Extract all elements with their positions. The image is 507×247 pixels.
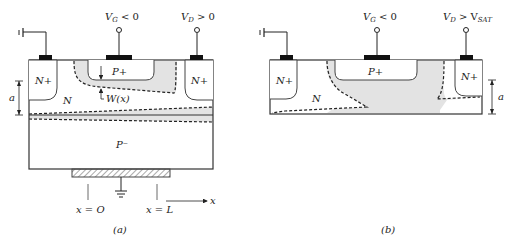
x0-label-a: x = O [76, 204, 105, 215]
gate-region-label-a: P+ [111, 66, 127, 77]
drain-voltage-label-a: VD > 0 [181, 11, 215, 24]
channel-label-b: N [311, 93, 322, 104]
drain-terminal-a [195, 28, 200, 33]
gate-contact-a [106, 55, 132, 60]
thickness-label-a: a [9, 92, 15, 103]
xL-label-a: x = L [146, 204, 173, 215]
jfet-diagram: VG < 0 VD > 0 N+ P+ N+ N P⁻ W(x) a x = O… [0, 0, 507, 247]
drain-contact-b [460, 55, 473, 60]
figure-b: VG < 0 VD > VSAT N+ P+ N+ N a (b) [260, 11, 504, 235]
x-axis-label-a: x [210, 195, 216, 206]
caption-b: (b) [381, 224, 395, 235]
gate-region-label-b: P+ [367, 66, 383, 77]
drain-voltage-label-b: VD > VSAT [443, 11, 493, 24]
source-ground-wire-a [23, 32, 46, 55]
gate-voltage-label-a: VG < 0 [105, 11, 139, 24]
source-region-label-b: N+ [275, 75, 293, 86]
substrate-contact-a [72, 169, 170, 177]
depletion-width-label-a: W(x) [106, 93, 130, 104]
drain-region-label-b: N+ [460, 71, 478, 82]
drain-terminal-b [464, 28, 469, 33]
gate-terminal-a [117, 28, 122, 33]
source-contact-a [39, 55, 52, 60]
caption-a: (a) [113, 224, 127, 235]
drain-contact-a [190, 55, 203, 60]
gate-terminal-b [375, 28, 380, 33]
gate-voltage-label-b: VG < 0 [363, 11, 397, 24]
drain-region-label-a: N+ [190, 75, 208, 86]
thickness-label-b: a [498, 91, 504, 102]
source-region-label-a: N+ [34, 75, 52, 86]
figure-a: VG < 0 VD > 0 N+ P+ N+ N P⁻ W(x) a x = O… [9, 11, 216, 235]
substrate-label-a: P⁻ [115, 139, 128, 150]
gate-contact-b [364, 55, 390, 60]
source-contact-b [280, 55, 293, 60]
channel-label-a: N [62, 95, 73, 106]
